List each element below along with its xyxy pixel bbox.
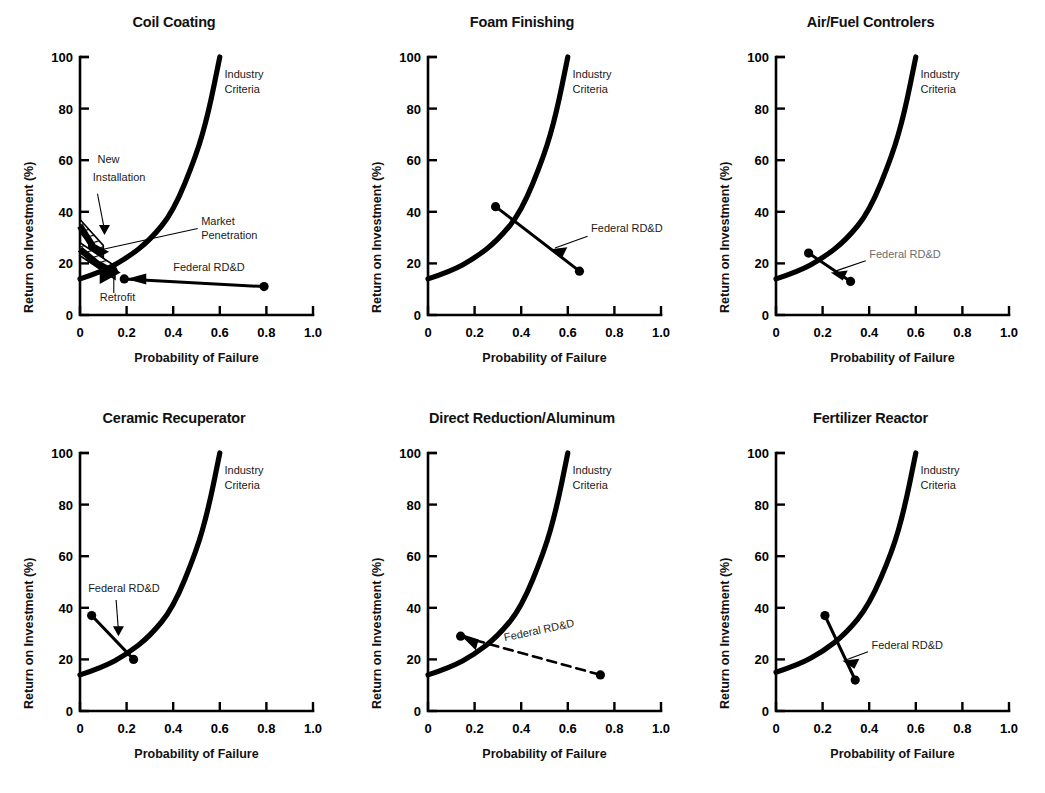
y-tick-label: 0 [414, 308, 421, 323]
data-point-marker [491, 202, 500, 211]
plot-area: 02040608010000.20.40.60.81.0IndustryCrit… [696, 0, 1044, 396]
x-tick-label: 0.6 [211, 721, 229, 736]
x-tick-label: 0.6 [559, 721, 577, 736]
annotation-label: Criteria [920, 479, 956, 491]
annotation-label: Penetration [201, 229, 257, 241]
x-tick-label: 1.0 [304, 325, 322, 340]
x-tick-label: 0.2 [466, 325, 484, 340]
x-tick-label: 0.2 [814, 721, 832, 736]
chart-panel: Fertilizer Reactor02040608010000.20.40.6… [696, 396, 1045, 793]
x-tick-label: 0.8 [953, 325, 971, 340]
annotation-label: Market [201, 215, 235, 227]
chart-grid: Coil Coating02040608010000.20.40.60.81.0… [0, 0, 1045, 793]
y-tick-label: 40 [59, 205, 73, 220]
x-tick-label: 0.6 [907, 325, 925, 340]
x-tick-label: 1.0 [304, 721, 322, 736]
leader-line [462, 636, 478, 641]
plot-area: 02040608010000.20.40.60.81.0IndustryCrit… [348, 396, 696, 792]
data-point-marker [596, 670, 605, 679]
annotation-label: Federal RD&D [872, 639, 944, 651]
leader-line [555, 236, 588, 248]
y-tick-label: 100 [51, 50, 73, 65]
plot-area: 02040608010000.20.40.60.81.0IndustryCrit… [696, 396, 1044, 792]
annotation-label: Criteria [572, 479, 608, 491]
x-tick-label: 0 [424, 721, 431, 736]
chart-panel: Coil Coating02040608010000.20.40.60.81.0… [0, 0, 348, 396]
x-axis-title: Probability of Failure [428, 351, 661, 365]
y-tick-label: 60 [407, 549, 421, 564]
y-tick-label: 80 [755, 498, 769, 513]
x-tick-label: 0.4 [164, 325, 183, 340]
y-tick-label: 80 [755, 102, 769, 117]
y-tick-label: 80 [407, 102, 421, 117]
x-tick-label: 0.4 [860, 721, 879, 736]
x-tick-label: 0.6 [211, 325, 229, 340]
plot-area: 02040608010000.20.40.60.81.0IndustryCrit… [348, 0, 696, 396]
annotation-label: Industry [572, 68, 612, 80]
federal-rdd-line [496, 207, 580, 272]
leader-line [97, 229, 197, 251]
y-tick-label: 100 [747, 446, 769, 461]
x-tick-label: 0.4 [164, 721, 183, 736]
y-tick-label: 20 [59, 652, 73, 667]
x-tick-label: 0.4 [860, 325, 879, 340]
leader-line [835, 261, 865, 271]
x-tick-label: 1.0 [652, 721, 670, 736]
annotation-label: Federal RD&D [173, 261, 245, 273]
y-tick-label: 40 [755, 601, 769, 616]
annotation-label: Retrofit [100, 291, 135, 303]
axis-lines [776, 57, 1009, 315]
x-tick-label: 0 [76, 721, 83, 736]
federal-rdd-line [461, 636, 601, 675]
chart-panel: Foam Finishing02040608010000.20.40.60.81… [348, 0, 696, 396]
annotation-label: Federal RD&D [591, 222, 663, 234]
data-point-marker [820, 611, 829, 620]
y-tick-label: 0 [414, 704, 421, 719]
data-point-marker [87, 611, 96, 620]
x-tick-label: 0 [424, 325, 431, 340]
y-tick-label: 0 [66, 308, 73, 323]
y-tick-label: 20 [407, 652, 421, 667]
y-tick-label: 60 [755, 549, 769, 564]
annotation-label: Criteria [224, 479, 260, 491]
y-axis-title: Return on Investment (%) [370, 162, 384, 313]
data-point-marker [804, 248, 813, 257]
x-tick-label: 0.2 [466, 721, 484, 736]
y-tick-label: 0 [762, 308, 769, 323]
y-tick-label: 60 [59, 549, 73, 564]
x-tick-label: 0.8 [605, 325, 623, 340]
y-tick-label: 20 [755, 256, 769, 271]
y-axis-title: Return on Investment (%) [22, 558, 36, 709]
x-tick-label: 1.0 [652, 325, 670, 340]
annotation-label: Federal RD&D [88, 582, 160, 594]
x-tick-label: 0.4 [512, 721, 531, 736]
y-tick-label: 20 [59, 256, 73, 271]
y-tick-label: 80 [407, 498, 421, 513]
leader-arrowhead [113, 626, 124, 636]
leader-line [97, 194, 104, 230]
data-point-marker [259, 282, 268, 291]
annotation-label: Criteria [224, 83, 260, 95]
chart-panel: Air/Fuel Controlers02040608010000.20.40.… [696, 0, 1045, 396]
y-axis-title: Return on Investment (%) [718, 558, 732, 709]
x-tick-label: 0 [76, 325, 83, 340]
chart-panel: Ceramic Recuperator02040608010000.20.40.… [0, 396, 348, 793]
federal-rdd-arrowhead [126, 273, 146, 284]
y-tick-label: 20 [755, 652, 769, 667]
x-tick-label: 0.2 [814, 325, 832, 340]
x-axis-title: Probability of Failure [776, 351, 1009, 365]
y-axis-title: Return on Investment (%) [370, 558, 384, 709]
y-tick-label: 40 [407, 205, 421, 220]
x-tick-label: 0 [772, 325, 779, 340]
x-axis-title: Probability of Failure [80, 351, 313, 365]
industry-criteria-curve [428, 453, 568, 675]
y-tick-label: 80 [59, 102, 73, 117]
annotation-label: Industry [572, 464, 612, 476]
x-tick-label: 0 [772, 721, 779, 736]
annotation-label: Federal RD&D [869, 248, 941, 260]
y-tick-label: 40 [59, 601, 73, 616]
axis-lines [428, 453, 661, 711]
x-tick-label: 0.8 [257, 325, 275, 340]
chart-panel: Direct Reduction/Aluminum02040608010000.… [348, 396, 696, 793]
x-tick-label: 0.8 [605, 721, 623, 736]
